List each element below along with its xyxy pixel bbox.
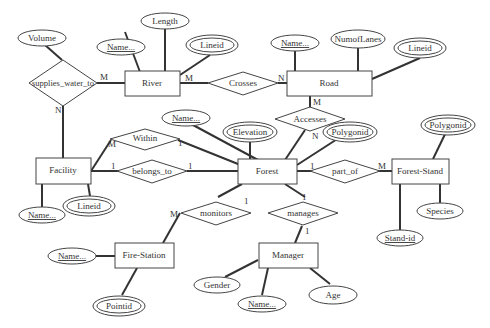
attribute-label: Polygonid: [429, 120, 467, 130]
attribute-label: Elevation: [233, 127, 268, 137]
cardinality-label: N: [55, 105, 62, 115]
cardinality-label: 1: [310, 161, 315, 171]
entity-label: River: [142, 78, 162, 88]
attribute-road-name[interactable]: Name...: [271, 35, 319, 51]
attribute-label: Age: [326, 290, 341, 300]
entity-forest-stand[interactable]: Forest-Stand: [392, 159, 449, 184]
attribute-river-name[interactable]: Name...: [97, 39, 145, 55]
entity-label: Forest: [256, 166, 279, 176]
er-diagram: River Road Facility Forest Forest-Stand …: [0, 0, 490, 328]
relationship-monitors[interactable]: monitors: [181, 202, 251, 225]
relationship-label: manages: [287, 208, 319, 218]
attribute-facility-name[interactable]: Name...: [19, 207, 65, 223]
entity-fire-station[interactable]: Fire-Station: [115, 243, 174, 268]
attribute-label: Volume: [28, 33, 56, 43]
attribute-stand-id[interactable]: Stand-id: [377, 230, 423, 246]
attribute-elevation[interactable]: Elevation: [223, 122, 277, 142]
entity-facility[interactable]: Facility: [36, 158, 91, 184]
attribute-label: Name...: [28, 210, 56, 220]
attribute-stand-polygonid[interactable]: Polygonid: [421, 115, 475, 135]
attribute-label: Species: [426, 206, 454, 216]
attribute-forest-polygonid[interactable]: Polygonid: [323, 122, 377, 142]
attribute-pointid[interactable]: Pointid: [93, 296, 145, 316]
attribute-numoflanes[interactable]: NumofLanes: [331, 30, 385, 48]
entity-label: Manager: [272, 250, 304, 260]
cardinality-label: N: [312, 131, 319, 141]
relationship-label: Within: [133, 133, 158, 143]
cardinality-label: M: [100, 72, 108, 82]
cardinality-label: 1: [111, 161, 116, 171]
attribute-label: Name...: [58, 251, 86, 261]
cardinality-label: 1: [178, 138, 183, 148]
attribute-label: Lineid: [77, 201, 101, 211]
cardinality-label: M: [108, 139, 116, 149]
entity-manager[interactable]: Manager: [259, 243, 318, 268]
attribute-label: Name...: [107, 42, 135, 52]
attribute-label: NumofLanes: [335, 34, 382, 44]
attribute-volume[interactable]: Volume: [18, 30, 66, 46]
attribute-label: Name...: [281, 38, 309, 48]
cardinality-label: M: [170, 209, 178, 219]
relationship-label: Crosses: [229, 78, 257, 88]
attribute-label: Stand-id: [385, 233, 416, 243]
attribute-label: Polygonid: [331, 127, 369, 137]
attribute-fire-station-name[interactable]: Name...: [48, 248, 96, 264]
relationship-crosses[interactable]: Crosses: [208, 72, 278, 95]
relationship-label: Accesses: [294, 114, 327, 124]
attribute-label: Length: [152, 16, 178, 26]
attribute-label: Lineid: [408, 43, 432, 53]
attribute-label: Pointid: [106, 301, 133, 311]
attribute-length[interactable]: Length: [141, 13, 189, 29]
relationship-label: supplies_water_to: [32, 78, 94, 88]
attribute-label: Gender: [204, 280, 231, 290]
attribute-gender[interactable]: Gender: [194, 277, 240, 293]
entity-label: Fire-Station: [123, 250, 166, 260]
cardinality-label: N: [278, 73, 285, 83]
cardinality-label: 1: [188, 161, 193, 171]
cardinality-label: M: [313, 97, 321, 107]
relationship-label: belongs_to: [132, 166, 172, 176]
entity-forest[interactable]: Forest: [238, 159, 297, 184]
cardinality-label: 1: [305, 226, 310, 236]
attribute-road-lineid[interactable]: Lineid: [394, 38, 446, 58]
cardinality-label: M: [378, 161, 386, 171]
relationship-label: part_of: [332, 166, 358, 176]
relationship-manages[interactable]: manages: [268, 202, 338, 225]
attribute-river-lineid[interactable]: Lineid: [186, 35, 238, 55]
relationship-within[interactable]: Within: [110, 129, 180, 150]
attribute-facility-lineid[interactable]: Lineid: [63, 196, 115, 216]
attribute-label: Name...: [172, 113, 200, 123]
attribute-species[interactable]: Species: [417, 203, 463, 219]
cardinality-label: M: [185, 73, 193, 83]
entity-road[interactable]: Road: [287, 71, 372, 96]
entity-label: Facility: [49, 165, 77, 175]
cardinality-label: 1: [244, 196, 249, 206]
cardinality-label: 1: [302, 192, 307, 202]
entity-river[interactable]: River: [125, 71, 180, 96]
entity-label: Forest-Stand: [397, 166, 443, 176]
attribute-manager-name[interactable]: Name...: [238, 296, 286, 312]
relationship-label: monitors: [200, 208, 232, 218]
relationship-supplies-water-to[interactable]: supplies_water_to: [29, 60, 97, 106]
entity-label: Road: [320, 78, 339, 88]
attribute-label: Name...: [248, 299, 276, 309]
attribute-label: Lineid: [200, 40, 224, 50]
relationship-part-of[interactable]: part_of: [310, 160, 380, 183]
attribute-age[interactable]: Age: [309, 286, 357, 304]
attribute-forest-name[interactable]: Name...: [162, 110, 210, 126]
relationship-belongs-to[interactable]: belongs_to: [117, 160, 187, 183]
